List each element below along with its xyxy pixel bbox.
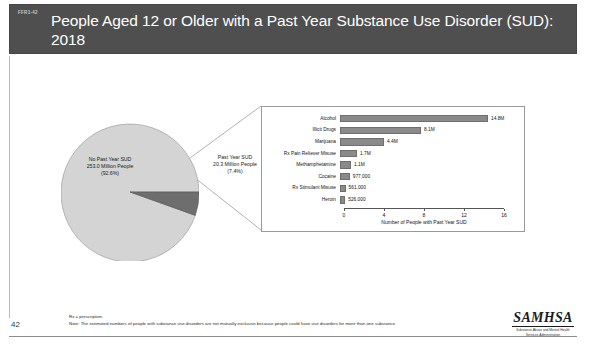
bar-fill xyxy=(340,161,351,168)
bar-track: 1.7M xyxy=(340,148,524,160)
pie-label-no-past-year-sud: No Past Year SUD 253.0 Million People (9… xyxy=(74,156,146,178)
bar-track: 4.4M xyxy=(340,136,524,148)
bar-category-label: Cocaine xyxy=(262,174,340,180)
bar-category-label: Rx Stimulant Misuse xyxy=(262,185,340,191)
bar-value-label: 526,000 xyxy=(348,197,365,203)
bar-track: 8.1M xyxy=(340,125,524,137)
bar-chart-x-axis-title: Number of People with Past Year SUD xyxy=(344,219,504,225)
bar-chart-row: Cocaine977,000 xyxy=(262,171,524,183)
bar-fill xyxy=(340,115,488,122)
pie-label-value: 253.0 Million People xyxy=(74,163,146,170)
pie-label-percent: (92.6%) xyxy=(74,170,146,177)
bar-track: 14.8M xyxy=(340,113,524,125)
samhsa-subtitle-line1: Substance Abuse and Mental Health xyxy=(505,328,581,332)
bar-chart-row: Illicit Drugs8.1M xyxy=(262,125,524,137)
bar-fill xyxy=(340,138,384,145)
bar-chart-rows: Alcohol14.8MIllicit Drugs8.1MMarijuana4.… xyxy=(262,113,524,206)
bar-chart-panel: Alcohol14.8MIllicit Drugs8.1MMarijuana4.… xyxy=(261,106,525,232)
bar-value-label: 8.1M xyxy=(424,127,435,133)
axis-tick-label: 0 xyxy=(343,212,346,218)
footnotes: Rx = prescription. Note: The estimated n… xyxy=(69,313,499,327)
bar-value-label: 561,000 xyxy=(349,185,366,191)
bar-track: 561,000 xyxy=(340,183,524,195)
pie-label-name: No Past Year SUD xyxy=(74,156,146,163)
bar-value-label: 14.8M xyxy=(491,116,504,122)
bar-value-label: 1.7M xyxy=(360,151,371,157)
samhsa-subtitle-line2: Services Administration xyxy=(505,333,581,337)
figure-area: No Past Year SUD 253.0 Million People (9… xyxy=(0,56,589,306)
bar-fill xyxy=(340,196,345,203)
bar-category-label: Illicit Drugs xyxy=(262,127,340,133)
axis-tick-label: 16 xyxy=(501,212,507,218)
bar-chart-row: Rx Pain Reliever Misuse1.7M xyxy=(262,148,524,160)
slide-code-label: FFR1-42 xyxy=(18,10,38,16)
bar-fill xyxy=(340,185,346,192)
bar-chart-row: Rx Stimulant Misuse561,000 xyxy=(262,183,524,195)
bar-category-label: Marijuana xyxy=(262,139,340,145)
bar-fill xyxy=(340,127,421,134)
bar-value-label: 4.4M xyxy=(387,139,398,145)
bar-value-label: 1.1M xyxy=(354,162,365,168)
slide-title-bar: FFR1-42 People Aged 12 or Older with a P… xyxy=(9,4,577,54)
bar-category-label: Heroin xyxy=(262,197,340,203)
footer-rule xyxy=(9,336,577,337)
footnote-rx: Rx = prescription. xyxy=(69,313,499,320)
samhsa-wordmark: SAMHSA xyxy=(512,310,573,327)
slide: FFR1-42 People Aged 12 or Older with a P… xyxy=(0,0,589,349)
bar-track: 977,000 xyxy=(340,171,524,183)
bar-track: 1.1M xyxy=(340,159,524,171)
pie-chart-svg xyxy=(61,123,199,261)
bar-chart-row: Methamphetamine1.1M xyxy=(262,159,524,171)
footnote-note: Note: The estimated numbers of people wi… xyxy=(69,320,499,327)
axis-tick-label: 8 xyxy=(423,212,426,218)
bar-category-label: Alcohol xyxy=(262,116,340,122)
bar-category-label: Methamphetamine xyxy=(262,162,340,168)
bar-value-label: 977,000 xyxy=(353,174,370,180)
bar-chart-row: Marijuana4.4M xyxy=(262,136,524,148)
bar-chart-row: Heroin526,000 xyxy=(262,194,524,206)
bar-chart-row: Alcohol14.8M xyxy=(262,113,524,125)
axis-tick-label: 12 xyxy=(461,212,467,218)
page-title: People Aged 12 or Older with a Past Year… xyxy=(51,12,571,49)
page-number: 42 xyxy=(11,320,20,329)
pie-chart xyxy=(61,123,199,261)
bar-chart-x-axis-ticks: 0481216 xyxy=(344,209,504,217)
bar-fill xyxy=(340,173,350,180)
samhsa-logo: SAMHSA Substance Abuse and Mental Health… xyxy=(505,308,581,337)
bar-track: 526,000 xyxy=(340,194,524,206)
axis-tick-label: 4 xyxy=(383,212,386,218)
bar-category-label: Rx Pain Reliever Misuse xyxy=(262,151,340,157)
bar-fill xyxy=(340,150,357,157)
